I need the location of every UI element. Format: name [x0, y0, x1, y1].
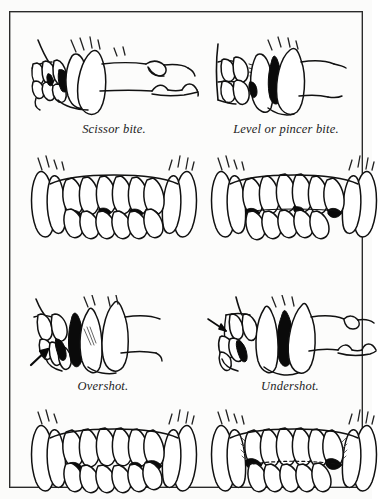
caption-level-pincer-bite: Level or pincer bite. [206, 122, 366, 137]
caption-undershot-bite: Undershot. [210, 379, 370, 394]
figure-level-pincer-bite-front [206, 154, 382, 252]
plate-frame: Scissor bite. Level or pincer bite. [9, 11, 363, 488]
caption-overshot-bite: Overshot. [28, 379, 178, 394]
figure-undershot-bite-front [206, 408, 382, 499]
figure-overshot-bite-front [26, 408, 202, 499]
figure-undershot-bite-side [206, 295, 378, 379]
caption-scissor-bite: Scissor bite. [28, 122, 200, 137]
figure-scissor-bite-front [26, 154, 202, 252]
figure-overshot-bite-side [28, 295, 176, 379]
figure-scissor-bite-side [28, 34, 200, 120]
figure-level-pincer-bite-side [206, 34, 361, 120]
